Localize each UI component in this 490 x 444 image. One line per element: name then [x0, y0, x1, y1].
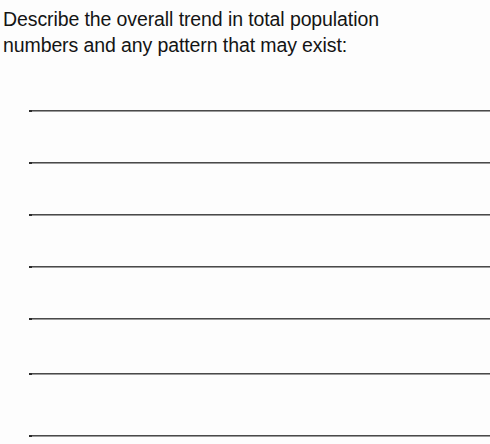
answer-line-4[interactable] [29, 266, 490, 268]
answer-line-6[interactable] [29, 373, 490, 375]
answer-line-1[interactable] [29, 110, 490, 112]
answer-line-3[interactable] [29, 214, 490, 216]
answer-lines-group [0, 0, 490, 444]
answer-line-7[interactable] [29, 435, 490, 437]
worksheet-page: Describe the overall trend in total popu… [0, 0, 490, 444]
answer-line-5[interactable] [29, 318, 490, 320]
answer-line-2[interactable] [29, 162, 490, 164]
